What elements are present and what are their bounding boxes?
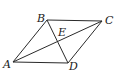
vertex-label-b: B — [36, 12, 45, 25]
side-bc — [47, 20, 102, 21]
vertex-label-a: A — [2, 58, 11, 71]
side-cd — [68, 21, 102, 63]
intersection-label-e: E — [57, 26, 66, 39]
side-da — [13, 62, 68, 63]
vertex-label-d: D — [68, 60, 78, 72]
parallelogram-diagram: A B C D E — [0, 0, 126, 72]
side-ab — [13, 20, 47, 62]
vertex-label-c: C — [105, 14, 114, 27]
